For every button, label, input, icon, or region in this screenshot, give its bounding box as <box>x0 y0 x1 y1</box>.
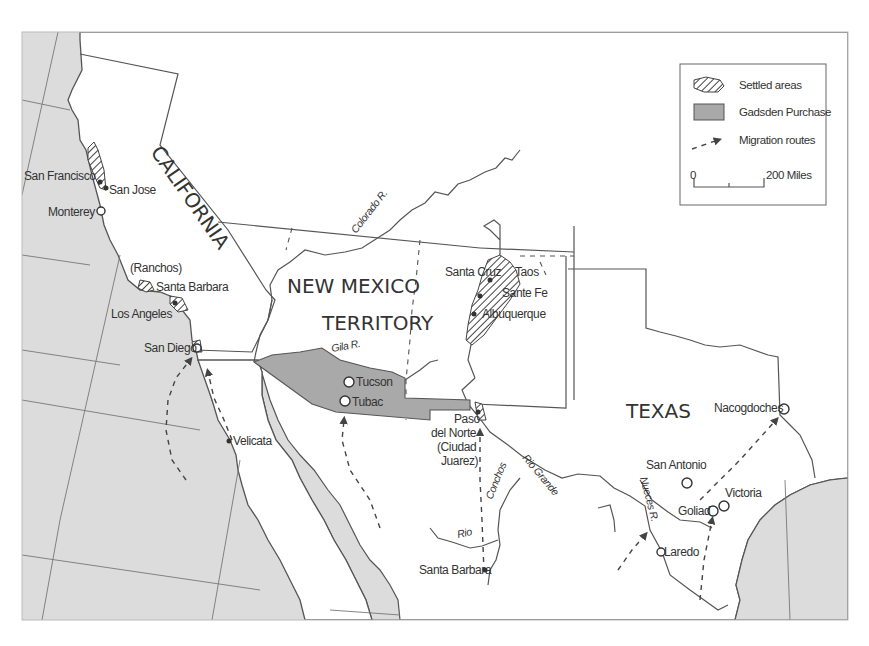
place-laredo: Laredo <box>664 545 700 559</box>
scale-start: 0 <box>690 169 696 181</box>
place-san-jose: San Jose <box>109 183 157 197</box>
map-canvas: CALIFORNIA NEW MEXICO TERRITORY TEXAS Sa… <box>0 0 869 646</box>
place-victoria: Victoria <box>725 486 762 500</box>
place-monterey: Monterey <box>48 205 95 219</box>
place-santa-barbara-mx: Santa Barbara <box>419 563 492 577</box>
place-paso-del-norte-4: Juarez) <box>441 454 479 468</box>
place-santa-cruz: Santa Cruz <box>445 265 501 279</box>
label-new-mexico: NEW MEXICO <box>287 274 420 298</box>
place-goliad: Goliad <box>678 504 710 518</box>
label-texas: TEXAS <box>625 399 691 423</box>
legend-label-settled: Settled areas <box>739 79 802 91</box>
gadsden-purchase-icon <box>694 104 724 120</box>
place-san-francisco: San Francisco <box>24 169 96 183</box>
label-territory: TERRITORY <box>321 311 434 335</box>
place-paso-del-norte-3: (Ciudad <box>437 440 476 454</box>
place-san-diego: San Diego <box>144 341 197 355</box>
place-nacogdoches: Nacogdoches <box>714 401 783 415</box>
legend-label-gadsden: Gadsden Purchase <box>739 106 831 118</box>
place-taos: Taos <box>515 265 539 279</box>
place-paso-del-norte-1: Paso <box>454 412 480 426</box>
place-los-angeles: Los Angeles <box>111 307 172 321</box>
place-tubac: Tubac <box>352 395 383 409</box>
place-velicata: Velicata <box>233 434 273 448</box>
legend: Settled areas Gadsden Purchase Migration… <box>680 64 831 205</box>
place-ranchos: (Ranchos) <box>130 261 182 275</box>
place-santa-fe: Sante Fe <box>502 286 548 300</box>
legend-label-migration: Migration routes <box>739 134 816 146</box>
place-santa-barbara-ca: Santa Barbara <box>156 280 229 294</box>
scale-end: 200 Miles <box>766 169 812 181</box>
place-san-antonio: San Antonio <box>646 458 707 472</box>
place-paso-del-norte-2: del Norte <box>431 426 477 440</box>
place-tucson: Tucson <box>356 375 393 389</box>
place-albuquerque: Albuquerque <box>482 307 546 321</box>
